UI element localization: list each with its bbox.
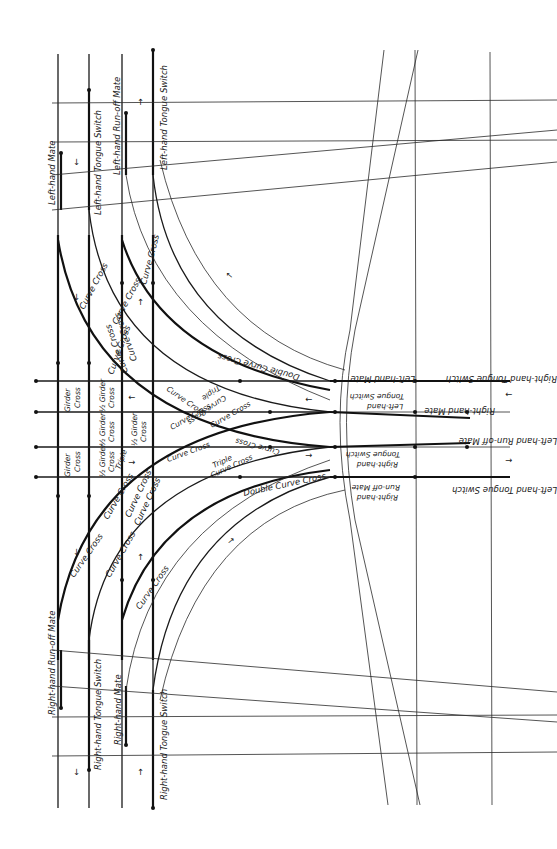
label-right-hand-mate-east: Right-hand Mate [424, 406, 495, 416]
label-cross: Cross [107, 421, 116, 442]
arrow-right-icon: → [305, 450, 312, 460]
east-switch-labels: Right-hand Tongue Switch Left-hand Mate … [345, 374, 557, 502]
label-left-hand-mate: Left-hand Mate [47, 140, 57, 205]
track-diagram-svg: ↓ ↑ ↓ ↑ ↓ ↑ ↓ ↑ ← → ← → ← → ← → Left-han… [0, 0, 557, 849]
label-curve-cross: Curve Cross [166, 440, 212, 464]
label-tongue-switch: Tongue Switch [349, 392, 404, 401]
label-right-hand-tongue-switch: Right-hand Tongue Switch [93, 659, 103, 770]
arrow-right-icon: → [505, 455, 512, 465]
arrow-up-icon: ↑ [137, 97, 144, 107]
arrow-right-icon: → [128, 457, 135, 467]
bottom-switch-labels: Right-hand Run-off Mate Right-hand Tongu… [47, 611, 169, 800]
arrow-left-icon: ← [305, 394, 312, 404]
arrow-left-icon: ← [505, 389, 512, 399]
arrow-up-icon: ↑ [137, 297, 144, 307]
label-left-hand-tongue-switch-east: Left-hand Tongue Switch [452, 485, 557, 495]
girder-cross-labels: Girder Cross Girder Cross ½ Girder Cross… [63, 378, 148, 477]
label-right-hand-tongue-switch-east: Right-hand Tongue Switch [446, 374, 557, 384]
label-half-girder: ½ Girder [98, 412, 107, 446]
arrow-left-icon: ← [128, 392, 135, 402]
label-half-girder: ½ Girder [98, 378, 107, 412]
label-half-girder: ½ Girder [98, 443, 107, 477]
arrow-down-icon: ↓ [73, 767, 80, 777]
label-right-hand-run-off-mate: Right-hand Run-off Mate [47, 611, 57, 715]
label-left-hand: Left-hand [367, 402, 403, 411]
label-right-hand: Right-hand [356, 460, 398, 469]
label-run-off-mate: Run-off Mate [351, 483, 400, 492]
label-left-hand-mate-east: Left-hand Mate [350, 374, 415, 384]
label-double-curve-cross: Double Curve Cross [216, 351, 300, 383]
arrow-right-icon: → [225, 534, 237, 546]
label-cross: Cross [73, 387, 82, 408]
label-cross: Cross [107, 387, 116, 408]
label-girder: Girder [63, 453, 72, 477]
label-girder: Girder [63, 388, 72, 412]
label-left-hand-run-off-mate: Left-hand Run-off Mate [112, 77, 122, 175]
horizontal-guide-lines [52, 100, 557, 756]
label-curve-cross: Curve Cross [77, 260, 110, 310]
track-diagram: ↓ ↑ ↓ ↑ ↓ ↑ ↓ ↑ ← → ← → ← → ← → Left-han… [0, 0, 557, 849]
label-cross: Cross [73, 451, 82, 472]
top-switch-labels: Left-hand Mate Left-hand Tongue Switch L… [47, 65, 169, 215]
label-right-hand-mate: Right-hand Mate [113, 674, 123, 745]
label-tongue-switch: Tongue Switch [345, 450, 400, 459]
label-half-girder: ½ Girder [130, 412, 139, 446]
label-right-hand-tongue-switch-2: Right-hand Tongue Switch [159, 689, 169, 800]
label-left-hand-tongue-switch: Left-hand Tongue Switch [93, 110, 103, 215]
label-curve-cross: Curve Cross [138, 233, 161, 286]
arrow-up-icon: ↑ [137, 552, 144, 562]
label-curve-cross: Curve Cross [103, 529, 138, 579]
label-left-hand-run-off-mate-east: Left-hand Run-off Mate [459, 436, 557, 446]
right-vertical-lines [340, 50, 492, 805]
arrow-left-icon: ← [224, 269, 236, 281]
arrow-down-icon: ↓ [73, 157, 80, 167]
label-right-hand: Right-hand [356, 493, 398, 502]
label-left-hand-tongue-switch-2: Left-hand Tongue Switch [159, 65, 169, 170]
label-cross: Cross [139, 421, 148, 442]
arrow-up-icon: ↑ [137, 767, 144, 777]
